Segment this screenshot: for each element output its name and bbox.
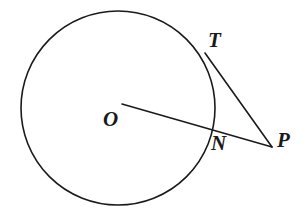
segment-OP-secant bbox=[122, 104, 272, 147]
geometry-figure: O T N P bbox=[0, 0, 307, 216]
point-label-P: P bbox=[277, 130, 290, 151]
circle-O bbox=[21, 11, 215, 205]
point-label-T: T bbox=[208, 30, 221, 51]
point-label-N: N bbox=[211, 133, 226, 154]
point-label-O: O bbox=[103, 109, 118, 130]
geometry-canvas bbox=[0, 0, 307, 216]
